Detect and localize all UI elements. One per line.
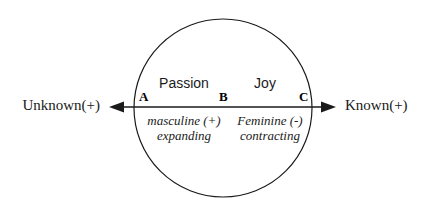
point-marker-b: B (219, 90, 228, 103)
region-label-passion: Passion (156, 76, 212, 90)
axis-label-known: Known(+) (345, 98, 408, 113)
point-marker-c: C (299, 90, 308, 103)
arrow-left-icon (109, 102, 124, 113)
region-label-joy: Joy (243, 76, 287, 90)
main-circle (134, 19, 312, 197)
arrow-right-icon (321, 102, 336, 113)
quality-block-masculine: masculine (+) expanding (142, 113, 226, 144)
diagram-canvas: Unknown(+) Known(+) A B C Passion Joy ma… (0, 0, 431, 221)
point-marker-a: A (139, 90, 148, 103)
quality-block-feminine: Feminine (-) contracting (229, 113, 311, 144)
quality-feminine-line1: Feminine (-) (229, 113, 311, 128)
axis-label-unknown: Unknown(+) (22, 98, 100, 113)
quality-masculine-line2: expanding (142, 128, 226, 143)
quality-masculine-line1: masculine (+) (142, 113, 226, 128)
quality-feminine-line2: contracting (229, 128, 311, 143)
